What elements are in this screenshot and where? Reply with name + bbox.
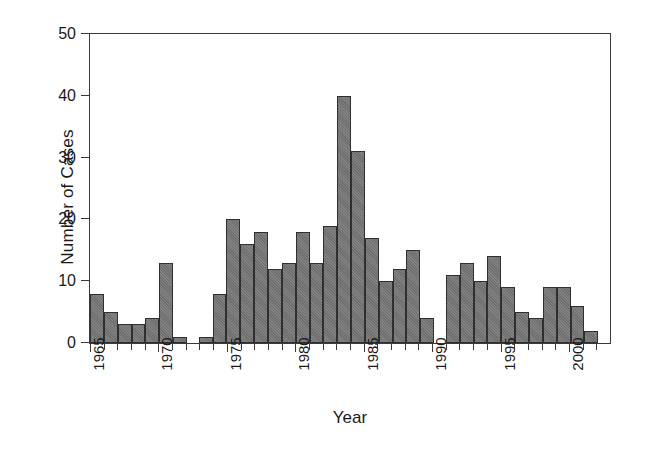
x-axis-tick [459,343,460,350]
bar [487,256,501,343]
x-axis-tick [213,343,214,350]
x-axis-tick: 2000 [569,343,570,352]
x-axis-tick [323,343,324,350]
plot-inner: 01020304050 1965197019751980198519901995… [90,34,610,343]
x-axis-tick: 1980 [295,343,296,352]
x-axis-tick [268,343,269,350]
x-axis-tick [254,343,255,350]
x-axis-tick [350,343,351,350]
x-axis-tick [391,343,392,350]
x-axis-tick [336,343,337,350]
y-axis-tick-label: 50 [58,24,76,44]
x-axis-tick [418,343,419,350]
y-axis-tick-label: 20 [58,209,76,229]
x-axis-tick [377,343,378,350]
x-axis-tick [583,343,584,350]
bar [406,250,420,343]
y-axis-tick: 20 [81,218,90,219]
bar [323,226,337,343]
bar [393,269,407,343]
bar [529,318,543,343]
bar [310,263,324,343]
x-axis-tick [131,343,132,350]
x-axis-tick [199,343,200,350]
chart-figure: Number of Cases 01020304050 196519701975… [0,0,645,449]
y-axis-tick-label: 10 [58,271,76,291]
y-axis-tick-label: 40 [58,86,76,106]
x-axis-tick [542,343,543,350]
bar [159,263,173,343]
x-axis-tick: 1970 [158,343,159,352]
x-axis-tick [104,343,105,350]
x-axis-tick [405,343,406,350]
y-axis-tick-label: 30 [58,148,76,168]
bar [584,331,598,343]
x-axis-tick [145,343,146,350]
x-axis-tick [596,343,597,350]
bar [351,151,365,343]
bar [132,324,146,343]
bar [379,281,393,343]
y-axis-tick: 0 [81,342,90,343]
y-axis-tick: 10 [81,280,90,281]
x-axis-tick [117,343,118,350]
bar [282,263,296,343]
y-axis-tick-label: 0 [67,333,76,353]
x-axis-tick [487,343,488,350]
x-axis-tick [555,343,556,350]
y-axis-tick: 30 [81,157,90,158]
x-axis-tick [186,343,187,350]
x-axis-tick: 1990 [432,343,433,352]
x-axis-tick [446,343,447,350]
bar-series [90,34,610,343]
bar [90,294,104,343]
bar [557,287,571,343]
x-axis-tick: 1965 [90,343,91,352]
bar [474,281,488,343]
bar [296,232,310,343]
bar [460,263,474,343]
x-axis-tick: 1995 [501,343,502,352]
bar [254,232,268,343]
bar [226,219,240,343]
x-axis-tick [528,343,529,350]
y-axis-tick: 40 [81,95,90,96]
bar [268,269,282,343]
x-axis-tick [282,343,283,350]
x-axis-tick [514,343,515,350]
x-axis-tick [172,343,173,350]
bar [199,337,213,343]
bar [240,244,254,343]
x-axis-tick [241,343,242,350]
x-axis-tick: 1975 [227,343,228,352]
bar [501,287,515,343]
bar [337,96,351,343]
x-axis-title: Year [90,408,610,428]
x-axis-tick: 1985 [364,343,365,352]
plot-area: 01020304050 1965197019751980198519901995… [89,33,611,344]
y-axis-tick: 50 [81,33,90,34]
bar [543,287,557,343]
bar [118,324,132,343]
x-axis-tick [473,343,474,350]
bar [446,275,460,343]
x-axis-tick [309,343,310,350]
bar [213,294,227,343]
bar [365,238,379,343]
